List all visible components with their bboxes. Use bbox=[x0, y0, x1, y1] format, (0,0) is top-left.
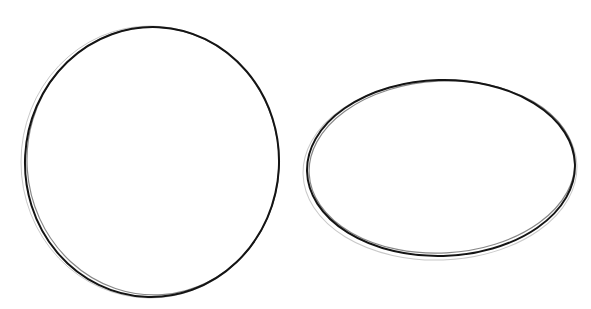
circle-mid-stroke bbox=[18, 19, 288, 304]
sketched-ellipse bbox=[300, 74, 580, 265]
sketch-canvas bbox=[0, 0, 591, 309]
sketched-circle bbox=[18, 19, 288, 304]
ellipse-faint-stroke bbox=[300, 75, 580, 264]
circle-main-stroke bbox=[18, 21, 286, 304]
